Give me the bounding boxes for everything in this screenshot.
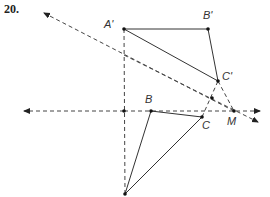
label-b: B bbox=[145, 93, 152, 105]
label-c-prime: C' bbox=[222, 70, 233, 82]
triangle-image bbox=[124, 29, 218, 81]
label-a-prime: A' bbox=[103, 18, 114, 30]
point-b bbox=[149, 109, 153, 113]
point-a-prime bbox=[122, 27, 126, 31]
construction-lines bbox=[24, 13, 260, 194]
point-c-prime bbox=[216, 79, 220, 83]
point-b-prime bbox=[206, 27, 210, 31]
geometry-diagram: A' B' C' B C M bbox=[0, 0, 270, 197]
point-m bbox=[232, 109, 236, 113]
triangle-original bbox=[125, 111, 202, 194]
c-to-cprime-dashed bbox=[202, 81, 218, 117]
label-c: C bbox=[202, 119, 210, 131]
point-intersection-mid bbox=[210, 96, 214, 100]
label-m: M bbox=[227, 115, 237, 127]
diagonal-dashed-line-lower bbox=[124, 55, 258, 122]
point-a bbox=[123, 192, 127, 196]
label-b-prime: B' bbox=[203, 9, 213, 21]
point-intersection-left bbox=[122, 109, 126, 113]
